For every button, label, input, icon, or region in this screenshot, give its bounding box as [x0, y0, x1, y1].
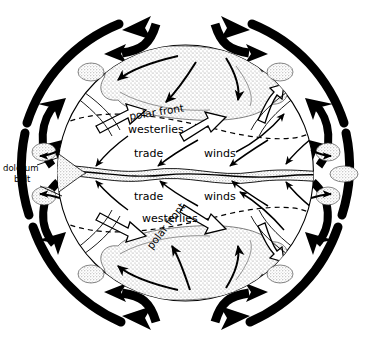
rim-cloud-sw: [78, 265, 104, 283]
rim-cloud-ne: [267, 63, 293, 81]
diagram-canvas: polar front westerlies trade winds trade…: [0, 0, 371, 346]
rim-cloud-se: [267, 265, 293, 283]
label-doldrum-line2: belt: [14, 174, 31, 184]
rim-cloud-e-equator: [330, 166, 358, 182]
label-winds-north: winds: [204, 147, 236, 160]
label-trade-north: trade: [134, 147, 164, 160]
rim-cloud-nw: [78, 63, 104, 81]
rim-cloud-e-upper: [316, 143, 340, 161]
label-westerlies-north: westerlies: [128, 123, 184, 136]
rim-cloud-w-upper: [32, 143, 56, 161]
label-doldrum-line1: doldrum: [3, 163, 39, 173]
label-winds-south: winds: [204, 190, 236, 203]
circulation-diagram: polar front westerlies trade winds trade…: [0, 0, 371, 346]
label-trade-south: trade: [134, 190, 164, 203]
